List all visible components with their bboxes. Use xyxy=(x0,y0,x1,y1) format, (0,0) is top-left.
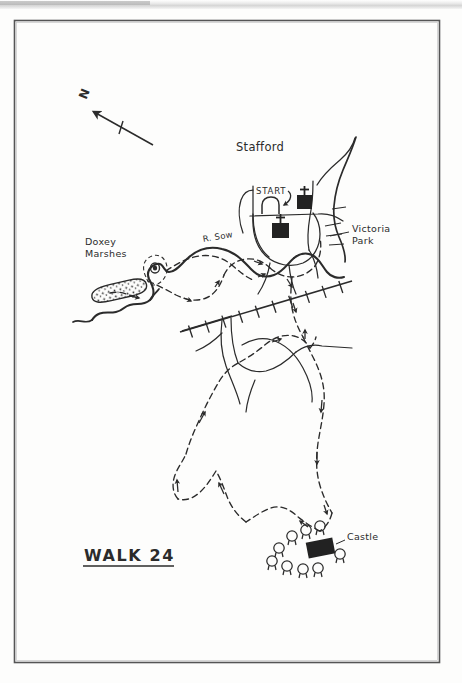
church-symbol-north xyxy=(297,186,312,209)
label-doxey-marshes: Doxey Marshes xyxy=(85,236,127,260)
tree-icon xyxy=(313,563,323,577)
label-stafford: Stafford xyxy=(236,140,284,154)
tree-icon xyxy=(301,525,311,539)
label-start: START xyxy=(256,186,286,196)
town-roads xyxy=(239,138,355,294)
route-direction-arrows xyxy=(131,261,327,527)
church-symbol-south xyxy=(272,214,289,238)
tree-icon xyxy=(298,564,308,578)
castle-building xyxy=(306,538,336,559)
map-page: Stafford START R. Sow Doxey Marshes Vict… xyxy=(0,0,462,683)
hand-drawn-map xyxy=(0,0,462,683)
label-victoria-park: Victoria Park xyxy=(352,223,390,247)
map-frame xyxy=(15,21,440,663)
tree-icon xyxy=(315,521,325,535)
tree-icon xyxy=(287,531,297,545)
southern-lanes xyxy=(196,318,352,412)
railway-line xyxy=(180,281,352,338)
tree-icon xyxy=(282,561,292,575)
page-title: WALK 24 xyxy=(84,546,175,565)
label-castle: Castle xyxy=(347,531,378,542)
tree-icon xyxy=(335,549,345,563)
start-point-symbol xyxy=(262,197,279,214)
north-arrow xyxy=(94,112,153,145)
tree-icon xyxy=(274,543,284,557)
stippled-marsh-pond xyxy=(90,277,148,305)
tree-icon xyxy=(267,556,277,570)
castle-leader xyxy=(336,540,345,544)
victoria-park-leader xyxy=(330,232,349,236)
